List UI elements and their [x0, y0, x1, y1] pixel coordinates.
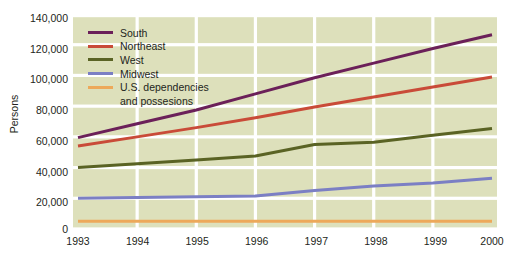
- series-line-west: [78, 128, 492, 167]
- y-tick-label: 20,000: [2, 197, 68, 207]
- legend-item-northeast: Northeast: [88, 40, 228, 54]
- y-tick-label: 120,000: [2, 44, 68, 54]
- x-tick-label: 1995: [170, 235, 224, 247]
- legend-label-northeast: Northeast: [120, 40, 166, 52]
- y-tick-label: 140,000: [2, 13, 68, 23]
- line-chart: 140,000 120,000 100,000 80,000 60,000 40…: [0, 0, 517, 258]
- legend-swatch-midwest: [88, 72, 113, 75]
- x-tick-label: 1998: [349, 235, 403, 247]
- legend-label-south: South: [120, 27, 147, 39]
- series-line-midwest: [78, 178, 492, 198]
- legend-item-midwest: Midwest: [88, 67, 228, 81]
- x-axis: 1993 1994 1995 1996 1997 1998 1999 2000: [0, 235, 517, 255]
- legend-item-west: West: [88, 53, 228, 67]
- gridline-vertical: [313, 14, 316, 229]
- x-tick-label: 2000: [465, 235, 517, 247]
- legend-swatch-south: [88, 31, 113, 34]
- legend-item-us-dependencies-line2: and possesions: [88, 94, 228, 108]
- x-tick-label: 1996: [230, 235, 284, 247]
- legend-label-us-dependencies-line2: and possesions: [120, 95, 193, 107]
- legend-label-midwest: Midwest: [120, 68, 159, 80]
- legend-label-us-dependencies: U.S. dependencies: [120, 81, 209, 93]
- y-tick-label: 40,000: [2, 167, 68, 177]
- y-axis-title: Persons: [8, 84, 20, 144]
- y-tick-label: 100,000: [2, 74, 68, 84]
- x-tick-label: 1999: [408, 235, 462, 247]
- x-tick-label: 1997: [289, 235, 343, 247]
- legend: South Northeast West Midwest U.S. depend…: [88, 26, 228, 108]
- y-tick-label: 0: [2, 224, 68, 234]
- x-tick-label: 1993: [51, 235, 105, 247]
- legend-swatch-west: [88, 58, 113, 61]
- legend-item-us-dependencies: U.S. dependencies: [88, 80, 228, 94]
- gridline-vertical: [431, 14, 434, 229]
- legend-item-south: South: [88, 26, 228, 40]
- legend-swatch-us-dependencies: [88, 86, 113, 89]
- x-tick-label: 1994: [111, 235, 165, 247]
- legend-swatch-northeast: [88, 45, 113, 48]
- legend-label-west: West: [120, 54, 144, 66]
- gridline-vertical: [372, 14, 375, 229]
